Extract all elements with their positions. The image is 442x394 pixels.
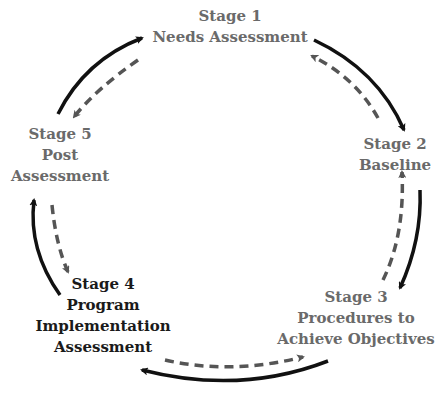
stage-3-label: Stage 3 Procedures to Achieve Objectives bbox=[270, 287, 442, 350]
stage-5-name-line-2: Assessment bbox=[10, 166, 110, 187]
stage-3-title: Stage 3 bbox=[270, 287, 442, 308]
dashed-arrow-2-to-1 bbox=[312, 56, 378, 118]
stage-cycle-diagram: Stage 1 Needs Assessment Stage 2 Baselin… bbox=[0, 0, 442, 394]
stage-3-name-line-2: Achieve Objectives bbox=[270, 329, 442, 350]
solid-arrow-1-to-2 bbox=[314, 40, 404, 130]
stage-4-name-line-3: Assessment bbox=[28, 337, 178, 358]
stage-1-title: Stage 1 bbox=[150, 6, 310, 27]
stage-5-label: Stage 5 Post Assessment bbox=[10, 124, 110, 187]
solid-arrow-5-to-1 bbox=[58, 38, 142, 114]
dashed-arrow-5-to-4 bbox=[52, 205, 68, 272]
dashed-arrow-1-to-5 bbox=[74, 60, 138, 117]
stage-4-label: Stage 4 Program Implementation Assessmen… bbox=[28, 274, 178, 358]
stage-2-label: Stage 2 Baseline bbox=[350, 134, 440, 176]
stage-5-title: Stage 5 bbox=[10, 124, 110, 145]
stage-4-name-line-1: Program bbox=[28, 295, 178, 316]
dashed-arrow-3-to-2 bbox=[383, 172, 402, 280]
stage-4-name-line-2: Implementation bbox=[28, 316, 178, 337]
stage-5-name-line-1: Post bbox=[10, 145, 110, 166]
stage-1-label: Stage 1 Needs Assessment bbox=[150, 6, 310, 48]
solid-arrow-3-to-4 bbox=[142, 361, 328, 381]
stage-1-name: Needs Assessment bbox=[150, 27, 310, 48]
stage-2-title: Stage 2 bbox=[350, 134, 440, 155]
stage-3-name-line-1: Procedures to bbox=[270, 308, 442, 329]
dashed-arrow-4-to-3 bbox=[165, 357, 303, 367]
stage-2-name: Baseline bbox=[350, 155, 440, 176]
stage-4-title: Stage 4 bbox=[28, 274, 178, 295]
